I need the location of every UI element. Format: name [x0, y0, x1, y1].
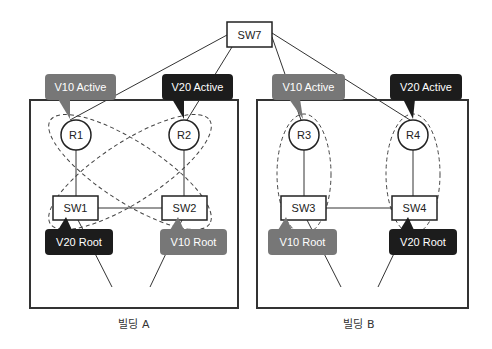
callout-text: V10 Root — [280, 236, 326, 248]
callout-text: V20 Root — [56, 236, 102, 248]
callout-sw4-v20-root: V20 Root — [389, 217, 457, 255]
sw2-label: SW2 — [173, 202, 197, 214]
callout-sw3-v10-root: V10 Root — [268, 217, 337, 255]
callout-text: V20 Root — [400, 236, 446, 248]
callout-r4-v20-active: V20 Active — [390, 74, 462, 119]
building-b-caption: 빌딩 B — [343, 318, 374, 331]
router-r1: R1 — [61, 120, 91, 150]
callout-r1-v10-active: V10 Active — [45, 74, 116, 119]
switch-sw3: SW3 — [281, 196, 326, 220]
router-r3: R3 — [289, 120, 319, 150]
callout-text: V10 Root — [171, 236, 217, 248]
sw3-label: SW3 — [292, 202, 316, 214]
sw4-label: SW4 — [403, 202, 427, 214]
r1-label: R1 — [69, 129, 83, 141]
callout-text: V10 Active — [283, 81, 335, 93]
callout-sw2-v10-root: V10 Root — [160, 217, 227, 255]
callout-text: V20 Active — [400, 81, 452, 93]
r4-label: R4 — [406, 129, 420, 141]
router-r4: R4 — [398, 120, 428, 150]
r3-label: R3 — [297, 129, 311, 141]
switch-sw2: SW2 — [162, 196, 207, 220]
r2-label: R2 — [177, 129, 191, 141]
callout-r2-v20-active: V20 Active — [162, 74, 233, 119]
building-a-caption: 빌딩 A — [118, 318, 149, 331]
callout-r3-v10-active: V10 Active — [272, 74, 345, 119]
switch-sw1: SW1 — [53, 196, 98, 220]
callout-text: V10 Active — [55, 81, 107, 93]
sw1-label: SW1 — [64, 202, 88, 214]
core-switch-sw7: SW7 — [227, 22, 272, 47]
sw7-label: SW7 — [238, 29, 262, 41]
network-diagram: SW7 R1 R2 R3 R4 SW1 SW2 SW3 SW4 V10 Acti… — [0, 0, 492, 349]
callout-text: V20 Active — [172, 81, 224, 93]
router-r2: R2 — [169, 120, 199, 150]
switch-sw4: SW4 — [392, 196, 437, 220]
